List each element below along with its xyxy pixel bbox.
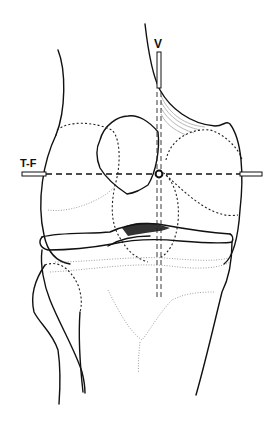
- tibia-stipple-band-2: [50, 262, 230, 272]
- label-v: V: [154, 37, 162, 51]
- tibia-crest-stipple: [138, 342, 140, 372]
- transverse-axis-pin-right: [240, 172, 262, 176]
- tibia-tuberosity-stipple: [108, 290, 214, 340]
- vertical-axis-pin: [157, 52, 161, 88]
- femur-stipple-left: [48, 186, 115, 211]
- transverse-axis-pin-left: [22, 172, 46, 176]
- fibula-head: [33, 265, 60, 404]
- tibia-right-edge: [196, 242, 232, 395]
- tibia-stipple-band: [55, 258, 228, 262]
- axis-intersection-point: [156, 171, 163, 178]
- knee-anatomy-diagram: V T-F: [0, 0, 280, 424]
- fibula-shaft: [79, 312, 83, 392]
- femur-shaft-left: [56, 50, 64, 135]
- label-t-f: T-F: [20, 157, 37, 169]
- femur-left-condyle: [41, 135, 70, 264]
- femur-dotted-notch: [160, 170, 178, 258]
- femur-dotted-right-condyle: [166, 130, 242, 160]
